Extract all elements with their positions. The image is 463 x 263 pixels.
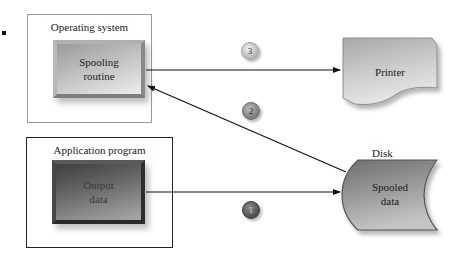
arrow-step-2: [148, 86, 346, 172]
spooled-data-label: Spooled data: [348, 180, 432, 208]
printer-label: Printer: [343, 65, 437, 79]
step-3-badge: 3: [241, 42, 259, 60]
disk-caption: Disk: [372, 147, 393, 159]
diagram-canvas: [0, 0, 463, 263]
step-1-number: 1: [249, 205, 254, 215]
spooled-data-label-line2: data: [348, 194, 432, 208]
step-2-badge: 2: [242, 102, 260, 120]
step-1-badge: 1: [242, 201, 260, 219]
spooled-data-label-line1: Spooled: [348, 180, 432, 194]
step-3-number: 3: [248, 46, 253, 56]
step-2-number: 2: [249, 106, 254, 116]
